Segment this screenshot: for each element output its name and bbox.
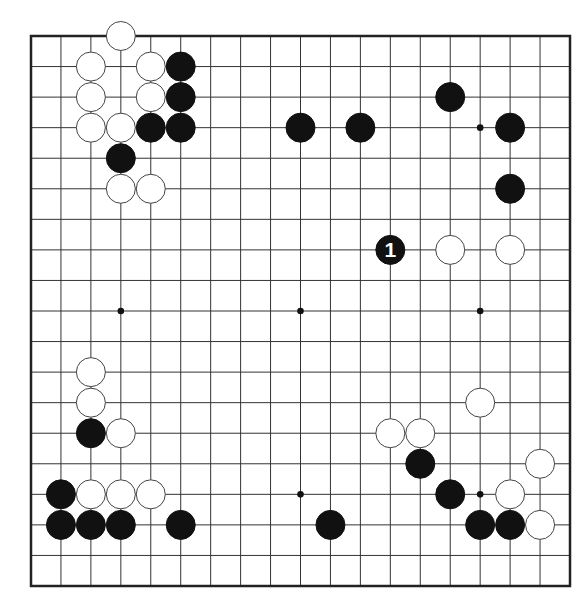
black-stone — [106, 144, 135, 173]
black-stone — [466, 510, 495, 539]
star-point — [118, 308, 125, 315]
white-stone — [136, 52, 165, 81]
white-stone — [106, 174, 135, 203]
black-stone: 1 — [376, 235, 405, 264]
white-stone — [106, 113, 135, 142]
white-stone — [526, 510, 555, 539]
black-stone — [436, 480, 465, 509]
black-stone — [166, 510, 195, 539]
white-stone — [106, 419, 135, 448]
black-stone — [76, 419, 105, 448]
black-stone — [46, 480, 75, 509]
black-stone — [166, 83, 195, 112]
white-stone — [526, 449, 555, 478]
white-stone — [136, 174, 165, 203]
white-stone — [496, 480, 525, 509]
white-stone — [106, 22, 135, 51]
white-stone — [136, 83, 165, 112]
black-stone — [76, 510, 105, 539]
star-point — [477, 124, 484, 131]
black-stone — [496, 510, 525, 539]
white-stone — [496, 235, 525, 264]
white-stone — [466, 388, 495, 417]
black-stone — [406, 449, 435, 478]
move-number-label: 1 — [384, 238, 396, 261]
black-stone — [286, 113, 315, 142]
white-stone — [76, 480, 105, 509]
black-stone — [316, 510, 345, 539]
white-stone — [76, 52, 105, 81]
black-stone — [106, 510, 135, 539]
black-stone — [136, 113, 165, 142]
white-stone — [136, 480, 165, 509]
black-stone — [166, 113, 195, 142]
star-point — [297, 308, 304, 315]
black-stone — [46, 510, 75, 539]
black-stone — [496, 113, 525, 142]
white-stone — [76, 358, 105, 387]
black-stone — [496, 174, 525, 203]
black-stone — [346, 113, 375, 142]
go-board: 1 — [0, 0, 580, 601]
white-stone — [376, 419, 405, 448]
black-stone — [166, 52, 195, 81]
white-stone — [76, 83, 105, 112]
black-stone — [436, 83, 465, 112]
white-stone — [436, 235, 465, 264]
star-point — [477, 491, 484, 498]
white-stone — [106, 480, 135, 509]
star-point — [297, 491, 304, 498]
white-stone — [406, 419, 435, 448]
star-point — [477, 308, 484, 315]
white-stone — [76, 113, 105, 142]
white-stone — [76, 388, 105, 417]
